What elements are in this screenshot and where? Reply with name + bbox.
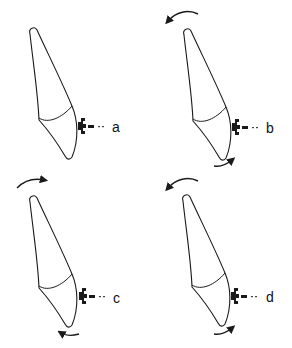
arrow-icon-d-top	[168, 179, 198, 188]
panel-b	[168, 12, 258, 167]
arrow-icon-b-bottom	[214, 160, 232, 166]
tooth-d	[183, 195, 230, 326]
panel-label-d: d	[266, 290, 274, 304]
arrow-icon-c-top	[17, 179, 44, 188]
tooth-c	[30, 196, 77, 327]
tooth-b	[184, 29, 231, 160]
tooth-a	[30, 28, 77, 159]
arrow-icon-b-top	[168, 12, 198, 21]
bracket-c	[79, 288, 105, 304]
diagram-canvas	[0, 0, 292, 348]
bracket-a	[78, 118, 104, 134]
panel-c	[17, 179, 105, 335]
panel-d	[168, 179, 257, 335]
panel-label-b: b	[266, 121, 274, 135]
bracket-d	[231, 288, 257, 304]
arrow-icon-c-bottom	[61, 333, 79, 335]
panel-label-a: a	[112, 120, 120, 134]
bracket-b	[232, 119, 258, 135]
panel-label-c: c	[113, 291, 120, 305]
panel-a	[30, 28, 104, 159]
arrow-icon-d-bottom	[214, 328, 232, 334]
